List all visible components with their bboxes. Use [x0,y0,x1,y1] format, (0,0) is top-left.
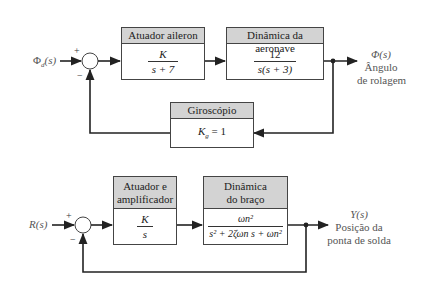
block-gyroscope: Giroscópio Kg = 1 [170,102,254,148]
block-actuator-amplifier: Atuador e amplificador K s [113,176,177,245]
transfer-function: K s [137,213,152,240]
block-aircraft-dynamics: Dinâmica da aeronave 12 s(s + 3) [226,27,324,80]
block-title: Atuador aileron [122,28,204,44]
sum-minus-sign-bottom: − [70,235,76,245]
block-arm-dynamics: Dinâmica do braço ωn² s² + 2ζωn s + ωn² [203,176,288,245]
gain-expression: Kg = 1 [198,125,226,140]
summing-junction-bottom [75,217,91,233]
block-title: Atuador e amplificador [114,177,176,209]
block-title: Dinâmica do braço [204,177,287,209]
transfer-function: K s + 7 [148,48,179,75]
transfer-function: 12 s(s + 3) [254,48,296,75]
input-label-r: R(s) [29,218,47,231]
block-title: Dinâmica da aeronave [227,28,323,44]
block-title: Giroscópio [171,103,253,119]
transfer-function: ωn² s² + 2ζωn s + ωn² [208,213,282,240]
sum-plus-sign-top: + [74,46,80,56]
output-label-top: Φ(s) Ângulo de rolagem [357,48,405,87]
output-label-bottom: Y(s) Posição da ponta de solda [327,208,391,247]
summing-junction-top [82,53,98,69]
sum-plus-sign-bottom: + [66,211,72,221]
block-aileron-actuator: Atuador aileron K s + 7 [121,27,205,80]
input-label-phi-d: Φd(s) [33,54,56,72]
sum-minus-sign-top: − [77,71,83,81]
